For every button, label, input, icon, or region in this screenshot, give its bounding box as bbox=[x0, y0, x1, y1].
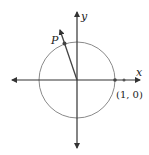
point-1-0-label: (1, 0) bbox=[116, 89, 143, 100]
point-p-dot bbox=[63, 42, 67, 46]
y-axis-label: y bbox=[80, 10, 88, 23]
point-1-0-dot bbox=[113, 78, 117, 82]
x-axis-label: x bbox=[136, 66, 143, 79]
terminal-ray bbox=[60, 30, 77, 80]
x-axis-tick-dot bbox=[123, 79, 126, 82]
point-p-label: P bbox=[50, 34, 59, 47]
unit-circle-diagram: y x P (1, 0) bbox=[0, 0, 149, 155]
